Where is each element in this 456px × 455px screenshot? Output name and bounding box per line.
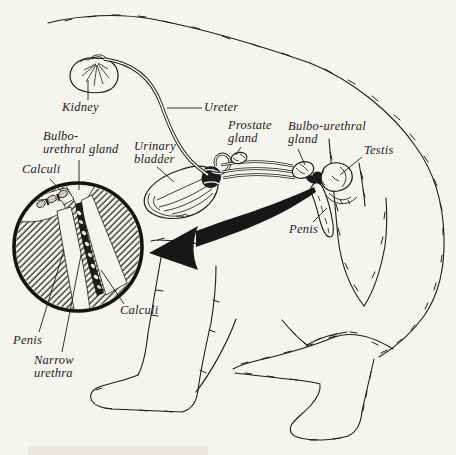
label-kidney: Kidney (62, 101, 99, 114)
label-urinary-bladder: Urinary bladder (134, 140, 176, 166)
thigh-back-line (364, 198, 387, 306)
label-penis-inset: Penis (13, 334, 42, 347)
cat-urinary-diagram: Kidney Ureter Bulbo- urethral gland Calc… (0, 0, 456, 455)
front-paw-line (91, 375, 198, 412)
anatomy-figure (0, 0, 456, 455)
front-leg-back-line (198, 266, 216, 390)
tail-lower-line (235, 373, 320, 384)
cat-back-line (48, 16, 310, 63)
hind-leg-line (362, 359, 374, 411)
magnified-inset (14, 182, 142, 315)
arrow-head (149, 226, 198, 270)
tail-upper-line (233, 334, 393, 369)
urinary-bladder-organ (144, 166, 222, 218)
scan-smudge (28, 446, 208, 455)
label-calculi-inset: Calculi (120, 304, 159, 317)
label-penis: Penis (289, 223, 318, 236)
label-calculi-top: Calculi (22, 163, 61, 176)
label-bulbo-urethral-right: Bulbo-urethral gland (288, 120, 366, 146)
flank-notch-line (282, 320, 347, 345)
label-testis: Testis (364, 144, 394, 157)
hind-paw-line (290, 385, 362, 440)
far-foreleg-line (196, 319, 236, 392)
label-ureter: Ureter (204, 101, 238, 114)
label-prostate-gland: Prostate gland (228, 119, 272, 145)
scrotum-fur-line (359, 163, 365, 206)
label-narrow-urethra: Narrow urethra (34, 354, 74, 380)
label-bulbo-urethral-left: Bulbo- urethral gland (43, 130, 119, 156)
